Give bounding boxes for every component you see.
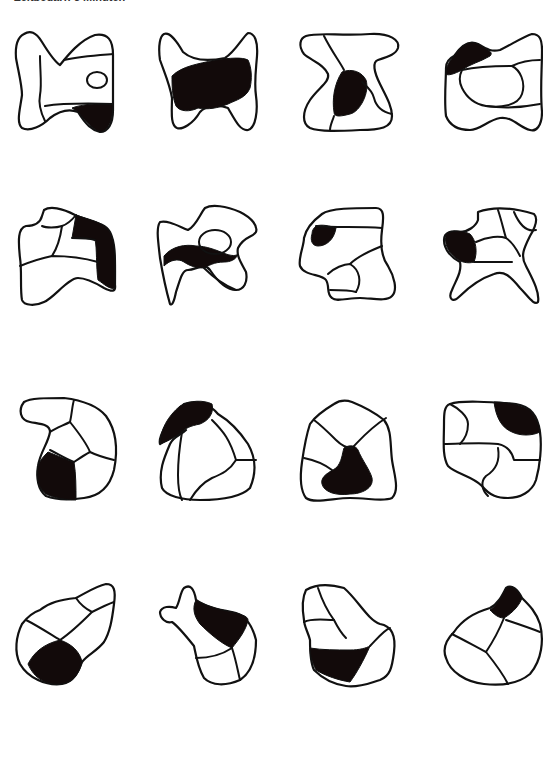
figure-5 [19, 208, 115, 305]
figure-14 [160, 587, 256, 685]
figure-6 [158, 206, 257, 305]
figures-grid [0, 0, 543, 758]
figure-1 [16, 32, 113, 132]
figure-15 [303, 585, 395, 686]
figure-10 [160, 401, 256, 500]
figure-16 [444, 587, 541, 685]
figure-7 [300, 208, 395, 300]
figure-12 [444, 402, 541, 498]
figure-4 [445, 34, 542, 130]
figure-3 [300, 34, 398, 131]
figure-11 [301, 401, 396, 501]
figure-2 [159, 33, 257, 130]
figure-8 [444, 208, 538, 303]
figure-13 [16, 584, 114, 684]
figure-9 [21, 398, 116, 500]
